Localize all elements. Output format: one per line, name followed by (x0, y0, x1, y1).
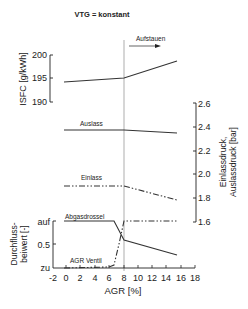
x-tick: 8 (121, 273, 126, 283)
arrow-right-icon (129, 44, 161, 48)
isfc-axis-label: ISFC [g/kWh] (18, 52, 28, 106)
x-tick: 0 (63, 273, 68, 283)
flow-axis: auf 0.5 zu Durchfluss- beiwert [-] (9, 217, 56, 273)
x-tick: 12 (147, 273, 157, 283)
pressure-tick-1.8: 1.8 (198, 193, 211, 203)
x-tick: 4 (92, 273, 97, 283)
x-tick: -2 (49, 273, 57, 283)
isfc-tick-195: 195 (32, 73, 47, 83)
flow-axis-label-2: beiwert [-] (19, 225, 29, 262)
pressure-tick-2.2: 2.2 (198, 146, 211, 156)
pressure-axis-label-1: Einlassdruck, (218, 137, 228, 188)
flow-tick-0.5: 0.5 (37, 240, 50, 250)
isfc-line (64, 61, 177, 82)
x-axis-label: AGR [%] (105, 285, 142, 296)
flow-tick-zu: zu (40, 263, 50, 273)
x-tick: 2 (77, 273, 82, 283)
pressure-tick-2.4: 2.4 (198, 122, 211, 132)
label-agr-ventil: AGR Ventil (70, 257, 102, 264)
auslass-line (64, 130, 177, 133)
pressure-axis: 2.6 2.4 2.2 2.0 1.8 1.6 Einlassdruck, Au… (193, 99, 238, 227)
x-tick: 18 (190, 273, 200, 283)
pressure-tick-2.6: 2.6 (198, 99, 211, 109)
isfc-tick-200: 200 (32, 50, 47, 60)
label-einlass: Einlass (81, 174, 103, 181)
x-tick: 6 (106, 273, 111, 283)
pressure-tick-2.0: 2.0 (198, 169, 211, 179)
flow-axis-label-1: Durchfluss- (9, 222, 19, 265)
isfc-tick-190: 190 (32, 97, 47, 107)
label-auslass: Auslass (80, 120, 104, 127)
isfc-axis: 200 195 190 ISFC [g/kWh] (18, 50, 53, 107)
chart-title: VTG = konstant (74, 10, 130, 19)
x-tick: 16 (176, 273, 186, 283)
einlass-line (64, 186, 177, 200)
annotation-aufstauen: Aufstauen (136, 35, 166, 42)
x-axis: -2 0 2 4 6 8 10 12 14 16 18 AGR [%] (49, 265, 200, 296)
chart-figure: VTG = konstant Aufstauen 200 195 190 ISF… (0, 0, 248, 309)
x-tick: 10 (133, 273, 143, 283)
label-abgasdrossel: Abgasdrossel (65, 213, 105, 221)
pressure-tick-1.6: 1.6 (198, 217, 211, 227)
pressure-axis-label-2: Auslassdruck [bar] (228, 127, 238, 197)
x-tick: 14 (161, 273, 171, 283)
flow-tick-auf: auf (37, 217, 50, 227)
